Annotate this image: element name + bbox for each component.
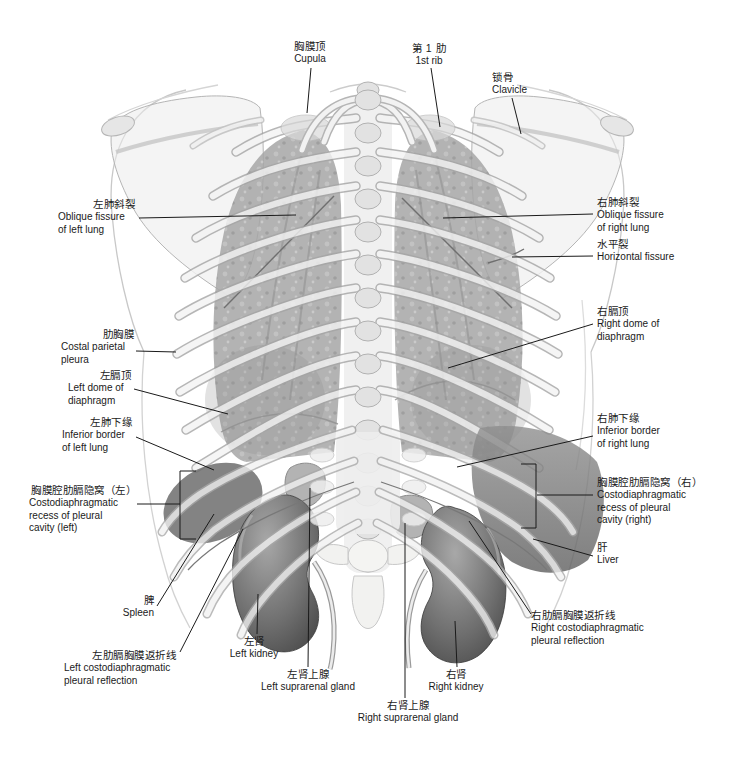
label-recess-left-en: Costodiaphragmatic recess of pleural cav… (29, 497, 136, 535)
label-liver: 肝Liver (597, 541, 647, 567)
label-clavicle: 锁骨Clavicle (492, 71, 552, 97)
label-left-suprarenal: 左肾上腺Left suprarenal gland (252, 668, 364, 694)
label-spleen-en: Spleen (118, 607, 154, 620)
label-spleen-zh: 脾 (118, 594, 154, 607)
label-liver-zh: 肝 (597, 541, 647, 554)
label-first-rib: 第 1 肋1st rib (392, 42, 466, 68)
label-oblique-fissure-right-en: Oblique fissure of right lung (597, 209, 681, 234)
label-first-rib-en: 1st rib (392, 55, 466, 68)
label-left-suprarenal-en: Left suprarenal gland (252, 681, 364, 694)
label-liver-en: Liver (597, 554, 647, 567)
label-cupula-zh: 胸膜顶 (273, 40, 347, 53)
label-right-kidney-zh: 右肾 (420, 668, 492, 681)
label-costal-pleura-en: Costal parietal pleura (61, 341, 134, 366)
label-right-dome-en: Right dome of diaphragm (597, 318, 681, 343)
label-right-reflection-en: Right costodiaphragmatic pleural reflect… (531, 622, 657, 647)
label-left-kidney-en: Left kidney (219, 648, 289, 661)
label-left-reflection-zh: 左肋膈胸膜返折线 (64, 649, 176, 662)
label-inferior-border-right-en: Inferior border of right lung (597, 425, 681, 450)
label-horizontal-fissure-en: Horizontal fissure (597, 251, 691, 264)
label-oblique-fissure-left-en: Oblique fissure of left lung (58, 211, 135, 236)
label-recess-right: 胸膜腔肋膈隐窝（右）Costodiaphragmatic recess of p… (597, 476, 707, 527)
label-right-reflection-zh: 右肋膈胸膜返折线 (531, 609, 657, 622)
label-inferior-border-left: 左肺下缘Inferior border of left lung (62, 416, 132, 454)
label-left-suprarenal-zh: 左肾上腺 (252, 668, 364, 681)
label-spleen: 脾Spleen (118, 594, 154, 620)
label-inferior-border-right-zh: 右肺下缘 (597, 412, 681, 425)
label-recess-right-zh: 胸膜腔肋膈隐窝（右） (597, 476, 707, 489)
label-horizontal-fissure-zh: 水平裂 (597, 238, 691, 251)
label-oblique-fissure-left: 左肺斜裂Oblique fissure of left lung (58, 198, 135, 236)
label-costal-pleura-zh: 肋胸膜 (61, 328, 134, 341)
label-left-kidney-zh: 左肾 (219, 635, 289, 648)
label-clavicle-en: Clavicle (492, 84, 552, 97)
label-left-dome-en: Left dome of diaphragm (68, 382, 131, 407)
label-oblique-fissure-left-zh: 左肺斜裂 (58, 198, 135, 211)
label-horizontal-fissure: 水平裂Horizontal fissure (597, 238, 691, 264)
label-costal-pleura: 肋胸膜Costal parietal pleura (61, 328, 134, 366)
label-inferior-border-right: 右肺下缘Inferior border of right lung (597, 412, 681, 450)
label-recess-left-zh: 胸膜腔肋膈隐窝（左） (29, 484, 136, 497)
label-recess-left: 胸膜腔肋膈隐窝（左）Costodiaphragmatic recess of p… (29, 484, 136, 535)
label-recess-right-en: Costodiaphragmatic recess of pleural cav… (597, 489, 707, 527)
label-right-dome-zh: 右膈顶 (597, 305, 681, 318)
label-inferior-border-left-en: Inferior border of left lung (62, 429, 132, 454)
label-oblique-fissure-right: 右肺斜裂Oblique fissure of right lung (597, 196, 681, 234)
label-right-suprarenal-en: Right suprarenal gland (350, 712, 466, 725)
label-cupula: 胸膜顶Cupula (273, 40, 347, 66)
label-clavicle-zh: 锁骨 (492, 71, 552, 84)
label-oblique-fissure-right-zh: 右肺斜裂 (597, 196, 681, 209)
label-right-kidney: 右肾Right kidney (420, 668, 492, 694)
label-first-rib-zh: 第 1 肋 (392, 42, 466, 55)
label-cupula-en: Cupula (273, 53, 347, 66)
label-left-dome-zh: 左膈顶 (68, 369, 131, 382)
label-left-kidney: 左肾Left kidney (219, 635, 289, 661)
label-left-dome: 左膈顶Left dome of diaphragm (68, 369, 131, 407)
label-right-reflection: 右肋膈胸膜返折线Right costodiaphragmatic pleural… (531, 609, 657, 647)
label-right-suprarenal: 右肾上腺Right suprarenal gland (350, 699, 466, 725)
label-left-reflection: 左肋膈胸膜返折线Left costodiaphragmatic pleural … (64, 649, 176, 687)
label-inferior-border-left-zh: 左肺下缘 (62, 416, 132, 429)
anatomy-plate: 胸膜顶Cupula 第 1 肋1st rib 锁骨Clavicle 左肺斜裂Ob… (0, 0, 729, 760)
label-right-kidney-en: Right kidney (420, 681, 492, 694)
label-right-suprarenal-zh: 右肾上腺 (350, 699, 466, 712)
label-right-dome: 右膈顶Right dome of diaphragm (597, 305, 681, 343)
label-left-reflection-en: Left costodiaphragmatic pleural reflecti… (64, 662, 176, 687)
